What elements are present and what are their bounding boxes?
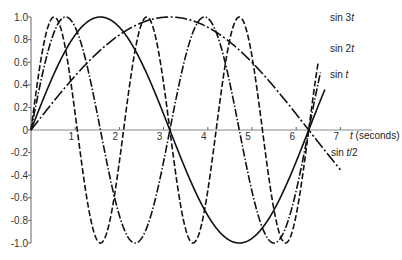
- y-tick-label: 1.0: [14, 12, 28, 23]
- x-axis-label: t (seconds): [350, 130, 399, 141]
- y-tick-label: -1.0: [11, 238, 29, 249]
- x-tick-label: 4: [201, 131, 207, 142]
- y-tick-label: -0.2: [11, 147, 29, 158]
- y-tick-label: -0.4: [11, 170, 29, 181]
- y-tick-label: 0.6: [14, 57, 28, 68]
- label-sin-t-half: sin t/2: [331, 147, 358, 158]
- x-tick-label: 7: [334, 131, 340, 142]
- y-tick-label: 0.2: [14, 102, 28, 113]
- label-sin-3t: sin 3t: [330, 12, 355, 23]
- y-tick-label: -0.8: [11, 215, 29, 226]
- y-tick-label: -0.6: [11, 192, 29, 203]
- x-tick-label: 6: [289, 131, 295, 142]
- curve-sin-t-2: [31, 17, 340, 170]
- axes: [31, 17, 372, 243]
- y-tick-label: 0.4: [14, 79, 28, 90]
- label-sin-t: sin t: [330, 69, 350, 80]
- x-ticks: 1234567: [68, 127, 340, 142]
- x-tick-label: 3: [157, 131, 163, 142]
- y-ticks: 1.00.80.60.40.20-0.2-0.4-0.6-0.8-1.0: [11, 12, 31, 249]
- y-tick-label: 0.8: [14, 34, 28, 45]
- x-tick-label: 5: [245, 131, 251, 142]
- label-sin-2t: sin 2t: [330, 43, 355, 54]
- sine-waves-chart: 1.00.80.60.40.20-0.2-0.4-0.6-0.8-1.0 123…: [0, 0, 402, 260]
- y-tick-label: 0: [22, 125, 28, 136]
- x-tick-label: 1: [68, 131, 74, 142]
- x-tick-label: 2: [113, 131, 119, 142]
